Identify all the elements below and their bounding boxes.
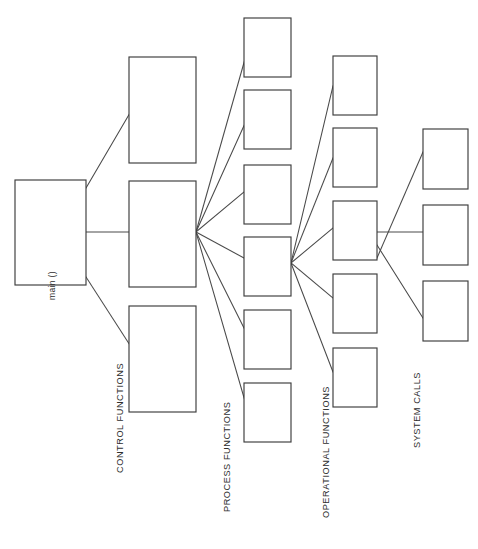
column-operational-functions: [333, 56, 377, 407]
connector-line: [196, 52, 247, 232]
column-main: [15, 180, 86, 285]
connector-line: [377, 152, 423, 258]
node-box-oper-3[interactable]: [333, 201, 377, 260]
node-box-ctrl-2[interactable]: [129, 181, 196, 287]
node-box-oper-5[interactable]: [333, 348, 377, 407]
label-operational-functions: OPERATIONAL FUNCTIONS: [321, 386, 331, 518]
connector-line: [196, 192, 244, 232]
node-box-sys-1[interactable]: [423, 129, 468, 189]
node-box-proc-6[interactable]: [244, 383, 291, 442]
diagram-canvas: main () CONTROL FUNCTIONS PROCESS FUNCTI…: [0, 0, 478, 549]
connector-line: [377, 245, 423, 318]
connector-line: [196, 232, 244, 258]
column-system-calls: [423, 129, 468, 341]
node-box-sys-2[interactable]: [423, 205, 468, 265]
label-main: main (): [47, 271, 57, 300]
node-box-proc-2[interactable]: [244, 90, 291, 149]
label-process-functions: PROCESS FUNCTIONS: [222, 402, 232, 512]
label-system-calls: SYSTEM CALLS: [412, 372, 422, 448]
column-process-functions: [244, 18, 291, 442]
node-box-proc-5[interactable]: [244, 310, 291, 369]
node-box-ctrl-3[interactable]: [129, 306, 196, 412]
node-box-ctrl-1[interactable]: [129, 57, 196, 163]
node-box-oper-4[interactable]: [333, 274, 377, 333]
hierarchy-diagram: main () CONTROL FUNCTIONS PROCESS FUNCTI…: [0, 0, 478, 549]
node-box-sys-3[interactable]: [423, 281, 468, 341]
node-box-proc-4[interactable]: [244, 237, 291, 296]
connector-line: [196, 119, 247, 232]
connector-line: [291, 263, 333, 372]
node-box-oper-2[interactable]: [333, 128, 377, 187]
connector-line: [291, 228, 333, 263]
node-box-proc-3[interactable]: [244, 165, 291, 224]
connector-line: [196, 232, 247, 408]
label-control-functions: CONTROL FUNCTIONS: [115, 363, 125, 473]
node-box-main-1[interactable]: [15, 180, 86, 285]
node-boxes-layer: [15, 18, 468, 442]
node-box-oper-1[interactable]: [333, 56, 377, 115]
node-box-proc-1[interactable]: [244, 18, 291, 77]
column-control-functions: [129, 57, 196, 412]
